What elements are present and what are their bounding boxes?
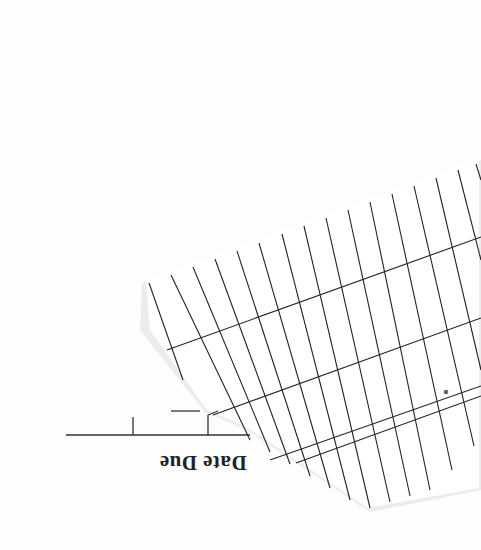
ink-dot xyxy=(444,390,449,395)
date-due-heading: Date Due xyxy=(151,448,255,478)
